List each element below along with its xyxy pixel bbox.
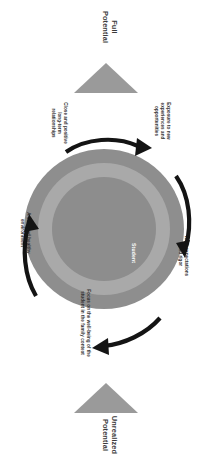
arrow-head-bottom-right	[92, 338, 109, 355]
label-exposure-new-experiences: Exposure to newexperiences andopportunit…	[145, 86, 171, 156]
ring-academics: Academics Student	[38, 163, 170, 295]
label-focus-wellbeing: Focus on the well-being of thestudent in…	[69, 286, 91, 360]
arrow-bottom-right-path	[104, 318, 160, 346]
ring-label-student: Student	[127, 231, 137, 275]
full-potential-triangle-icon	[74, 63, 138, 93]
unrealized-potential-label: UnrealizedPotential	[96, 386, 118, 474]
label-safe-healthy-environment: A safe and healthyenvironment	[9, 205, 31, 261]
diagram-canvas: FullPotential Family Services Academics …	[0, 0, 212, 474]
label-close-positive-relationships: Close and positivelong-termrelationships	[42, 92, 68, 154]
ring-student: Student	[52, 177, 156, 281]
full-potential-label: FullPotential	[96, 0, 118, 70]
label-high-expectations-rigor: High expectationsand rigor	[167, 224, 189, 288]
ring-family-services: Family Services Academics Student	[24, 149, 184, 309]
